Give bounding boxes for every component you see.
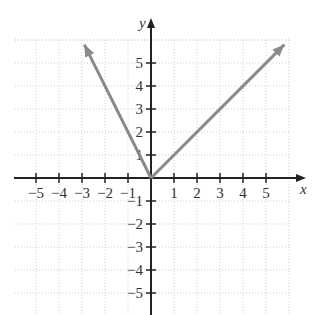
y-tick-label: −4 [127, 262, 143, 278]
y-tick-label: 3 [136, 101, 144, 117]
y-tick-label: −1 [127, 193, 143, 209]
ray-line [151, 45, 284, 178]
y-tick-label: −3 [127, 239, 143, 255]
x-axis-label: x [299, 181, 307, 197]
x-tick-label: 3 [216, 185, 224, 201]
y-tick-label: −2 [127, 216, 143, 232]
x-tick-label: −3 [74, 185, 90, 201]
y-axis-label: y [137, 15, 146, 31]
y-tick-label: 5 [136, 55, 144, 71]
x-tick-label: 5 [262, 185, 270, 201]
x-tick-label: 1 [170, 185, 178, 201]
graph: −5−4−3−2−11234554321−1−2−3−4−5 x y [0, 0, 315, 315]
y-tick-label: −5 [127, 285, 143, 301]
data-series [84, 45, 284, 178]
x-tick-label: 2 [193, 185, 201, 201]
coordinate-plane: −5−4−3−2−11234554321−1−2−3−4−5 x y [0, 0, 315, 315]
x-tick-label: −4 [51, 185, 67, 201]
y-tick-label: 4 [136, 78, 144, 94]
x-tick-label: −2 [97, 185, 113, 201]
x-tick-label: −5 [28, 185, 44, 201]
y-axis-arrow-icon [147, 18, 155, 28]
y-tick-label: 2 [136, 124, 144, 140]
x-tick-label: 4 [239, 185, 247, 201]
